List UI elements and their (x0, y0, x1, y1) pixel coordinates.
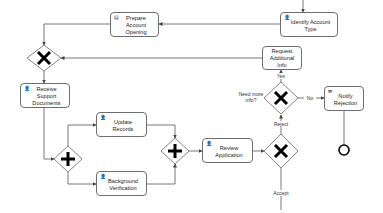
flow-prepare-to-merge (44, 24, 110, 45)
flow-fork-to-background (68, 172, 96, 184)
task-label: Background Verification (103, 178, 143, 192)
task-label: Review Application (209, 145, 249, 159)
user-task-icon: 👤 (24, 86, 30, 91)
user-task-icon: 👤 (206, 141, 212, 146)
task-label: Update Records (103, 119, 143, 133)
task-label: Notify Rejection (331, 93, 360, 107)
task-background-verification[interactable]: 👤 Background Verification (96, 171, 147, 196)
task-prepare-account-opening[interactable]: ▤ Prepare Account Opening (110, 12, 159, 37)
send-task-icon: ✉ (328, 89, 332, 94)
flow-label-no: No (304, 95, 316, 101)
gateway-need-more-info[interactable] (264, 82, 298, 114)
end-event[interactable] (339, 145, 349, 155)
gateway-merge-xor[interactable] (27, 45, 61, 71)
flow-update-to-join (147, 125, 175, 138)
task-identify-account-type[interactable]: 👤 Identify Account Type (280, 12, 338, 37)
task-review-application[interactable]: 👤 Review Application (202, 138, 253, 163)
task-label: Prepare Account Opening (117, 15, 155, 36)
flow-background-to-join (147, 164, 175, 184)
flow-label-reject: Reject (271, 121, 291, 127)
gateway-fork-parallel[interactable] (54, 146, 82, 172)
gateway-review-decision[interactable] (264, 134, 298, 168)
task-label: Receive Support Documents (27, 86, 66, 107)
flow-label-accept: Accept (271, 190, 291, 196)
user-task-icon: 👤 (284, 15, 290, 20)
task-label: Identify Account Type (287, 19, 334, 33)
script-task-icon: ▤ (114, 15, 119, 20)
user-task-icon: 👤 (100, 174, 106, 179)
task-request-additional-info[interactable]: Request Additional Info (262, 46, 302, 70)
task-label: Request Additional Info (265, 48, 299, 69)
flow-label-yes: Yes (275, 73, 287, 79)
task-update-records[interactable]: 👤 Update Records (96, 112, 147, 137)
gateway-label-need-more-info: Need more info? (238, 91, 264, 103)
gateway-join-parallel[interactable] (161, 138, 189, 164)
user-task-icon: 👤 (100, 115, 106, 120)
flow-receive-to-fork (44, 108, 54, 159)
flow-fork-to-update (68, 125, 96, 146)
task-receive-support-documents[interactable]: 👤 Receive Support Documents (20, 83, 70, 108)
task-notify-rejection[interactable]: ✉ Notify Rejection (324, 86, 364, 111)
